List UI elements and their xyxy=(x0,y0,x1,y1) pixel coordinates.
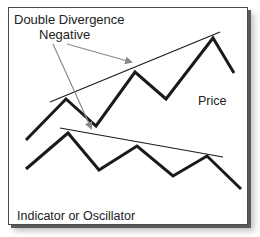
diagram-title-line1: Double Divergence xyxy=(14,12,125,27)
price-trendline xyxy=(50,32,220,102)
price-label: Price xyxy=(198,94,226,109)
indicator-label: Indicator or Oscillator xyxy=(17,209,135,224)
divergence-arrow-price xyxy=(67,44,131,62)
diagram-title-line2: Negative xyxy=(39,27,90,42)
divergence-arrow-indicator xyxy=(53,44,91,128)
